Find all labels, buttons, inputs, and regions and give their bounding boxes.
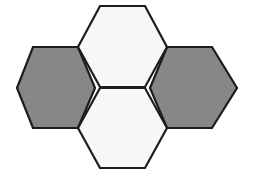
hexagon-cluster-canvas [0, 0, 254, 179]
hexagon-left-gray [17, 47, 95, 128]
hexagon-cluster-figure [0, 0, 254, 179]
